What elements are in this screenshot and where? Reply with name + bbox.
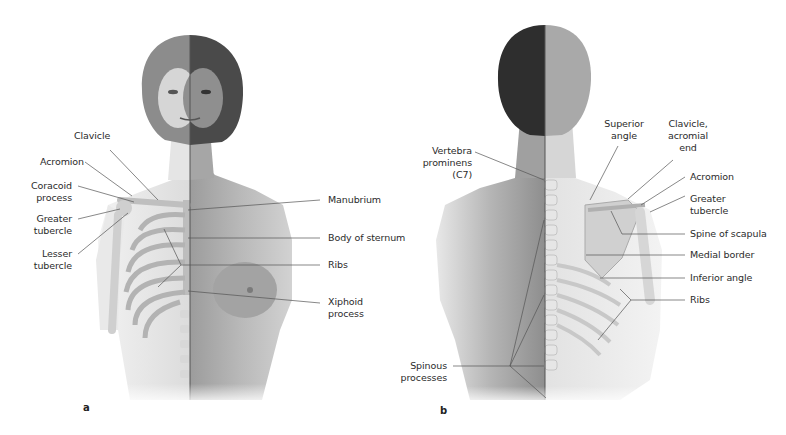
label-text: Inferior angle [690, 272, 752, 284]
label-acromion-b: Acromion [690, 171, 734, 183]
label-text: Superior [598, 118, 650, 130]
label-text: Acromion [690, 171, 734, 183]
label-text: prominens [410, 157, 472, 169]
label-spinous-processes: Spinous processes [395, 360, 447, 384]
label-text: Body of sternum [328, 232, 405, 244]
label-coracoid-process: Coracoid process [20, 180, 72, 204]
label-text: angle [598, 130, 650, 142]
label-xiphoid-process: Xiphoid process [328, 296, 364, 320]
label-text: Greater [20, 213, 72, 225]
label-text: processes [395, 372, 447, 384]
figure-canvas: Clavicle Acromion Coracoid process Great… [0, 0, 786, 435]
label-text: acromial [663, 130, 713, 142]
label-ribs-b: Ribs [690, 294, 710, 306]
label-text: Vertebra [410, 145, 472, 157]
label-manubrium: Manubrium [328, 194, 381, 206]
panel-letter-b: b [440, 405, 447, 416]
label-inferior-angle: Inferior angle [690, 272, 752, 284]
label-ribs-a: Ribs [328, 259, 348, 271]
label-text: process [20, 192, 72, 204]
label-text: tubercle [20, 225, 72, 237]
label-greater-tubercle-a: Greater tubercle [20, 213, 72, 237]
label-text: Lesser [20, 248, 72, 260]
label-spine-of-scapula: Spine of scapula [690, 228, 767, 240]
label-text: end [663, 142, 713, 154]
label-superior-angle: Superior angle [598, 118, 650, 142]
label-clavicle-acromial-end: Clavicle, acromial end [663, 118, 713, 154]
label-lesser-tubercle: Lesser tubercle [20, 248, 72, 272]
label-text: Medial border [690, 249, 754, 261]
label-text: (C7) [410, 169, 472, 181]
label-text: Clavicle [74, 130, 110, 142]
label-text: process [328, 308, 364, 320]
label-text: Spine of scapula [690, 228, 767, 240]
label-body-of-sternum: Body of sternum [328, 232, 405, 244]
label-greater-tubercle-b: Greater tubercle [690, 193, 728, 217]
label-text: Coracoid [20, 180, 72, 192]
label-vertebra-prominens: Vertebra prominens (C7) [410, 145, 472, 181]
label-text: Manubrium [328, 194, 381, 206]
label-text: Ribs [690, 294, 710, 306]
label-acromion: Acromion [36, 156, 84, 168]
posterior-figure [430, 25, 670, 405]
label-text: Acromion [36, 156, 84, 168]
panel-letter-a: a [83, 402, 90, 413]
label-medial-border: Medial border [690, 249, 754, 261]
label-text: tubercle [20, 260, 72, 272]
label-text: Ribs [328, 259, 348, 271]
label-clavicle: Clavicle [74, 130, 110, 142]
label-text: Spinous [395, 360, 447, 372]
anterior-figure [90, 35, 300, 405]
label-text: tubercle [690, 205, 728, 217]
label-text: Clavicle, [663, 118, 713, 130]
label-text: Greater [690, 193, 728, 205]
anatomy-illustration [0, 0, 786, 435]
label-text: Xiphoid [328, 296, 364, 308]
